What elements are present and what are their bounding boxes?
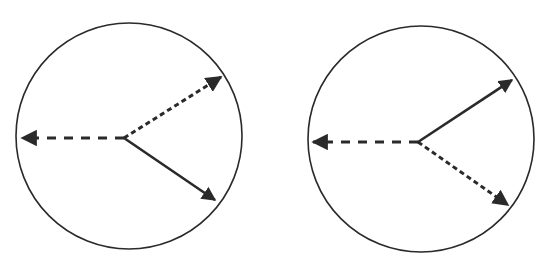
circle-outline xyxy=(16,23,242,249)
left-circle-panel xyxy=(16,23,242,249)
short-dash-arrow-lower-right-icon xyxy=(418,142,508,205)
solid-arrow-upper-right-icon xyxy=(418,80,512,142)
diagram-canvas xyxy=(0,0,541,263)
short-dash-arrow-upper-right-icon xyxy=(124,77,221,138)
right-circle-panel xyxy=(308,26,534,252)
solid-arrow-lower-right-icon xyxy=(124,138,215,200)
